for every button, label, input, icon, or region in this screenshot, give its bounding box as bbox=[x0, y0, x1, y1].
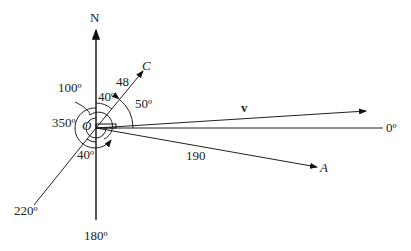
label-c: C bbox=[142, 58, 151, 73]
magnitude-c: 48 bbox=[116, 74, 129, 89]
angle-350-label: 350º bbox=[52, 115, 76, 130]
angle-north-c-label: 40º bbox=[98, 89, 115, 104]
arc-c-to-east bbox=[119, 99, 133, 128]
vector-a bbox=[96, 128, 317, 167]
southwest-label: 220º bbox=[14, 203, 38, 218]
origin-label: O bbox=[82, 118, 92, 133]
arc-south-to-220 bbox=[87, 139, 96, 142]
label-a: A bbox=[319, 160, 328, 175]
label-v: v bbox=[241, 100, 248, 115]
angle-c-east-label: 50º bbox=[135, 96, 152, 111]
vector-v bbox=[96, 111, 366, 128]
magnitude-a: 190 bbox=[186, 148, 206, 163]
bearing-diagram: N C 48 100º 40º 50º v 350º O 0º 190 40º … bbox=[0, 0, 411, 251]
south-label: 180º bbox=[84, 228, 108, 243]
north-label: N bbox=[90, 10, 100, 25]
angle-south-220-label: 40º bbox=[77, 147, 94, 162]
southwest-line bbox=[34, 128, 96, 205]
angle-100-label: 100º bbox=[58, 80, 82, 95]
east-label: 0º bbox=[386, 120, 397, 135]
